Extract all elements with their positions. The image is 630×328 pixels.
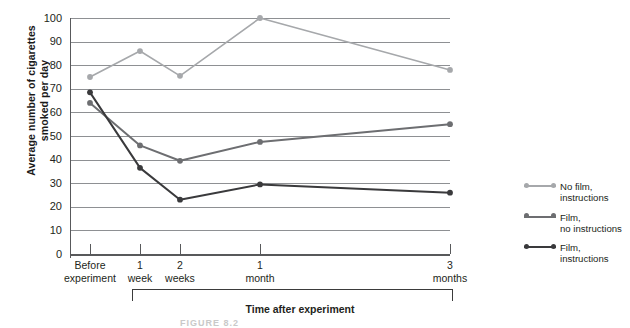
x-tick-label-4: 3months: [410, 259, 490, 284]
x-tick-2: [180, 244, 181, 254]
y-tick-label-100: 100: [36, 13, 62, 24]
x-tick-label-2-line-1: weeks: [140, 272, 220, 285]
x-tick-4: [450, 244, 451, 254]
x-tick-label-2-line-0: 2: [140, 259, 220, 272]
x-tick-3: [260, 244, 261, 254]
y-tick-label-60: 60: [36, 107, 62, 118]
y-tick-label-50: 50: [36, 131, 62, 142]
x-axis-range-bracket: [132, 289, 453, 301]
gridline-70: [70, 89, 450, 90]
legend-marker-l-1: [524, 213, 529, 218]
y-tick-label-30: 30: [36, 178, 62, 189]
legend: No film,instructionsFilm,no instructions…: [524, 181, 630, 273]
x-axis-title: Time after experiment: [150, 303, 450, 315]
y-tick-label-0: 0: [36, 249, 62, 260]
y-tick-label-90: 90: [36, 36, 62, 47]
plot-area: [70, 18, 450, 254]
gridline-40: [70, 160, 450, 161]
legend-label-0-line-0: No film,: [560, 181, 630, 192]
gridline-60: [70, 112, 450, 113]
legend-marker-l-0: [524, 183, 529, 188]
x-tick-label-2: 2weeks: [140, 259, 220, 284]
y-tick-label-10: 10: [36, 225, 62, 236]
gridline-30: [70, 183, 450, 184]
legend-label-2: Film,instructions: [560, 242, 630, 264]
gridline-10: [70, 230, 450, 231]
legend-label-0: No film,instructions: [560, 181, 630, 203]
legend-marker-r-1: [551, 213, 556, 218]
legend-label-2-line-0: Film,: [560, 242, 630, 253]
legend-label-1-line-0: Film,: [560, 212, 630, 223]
gridline-90: [70, 42, 450, 43]
y-tick-label-70: 70: [36, 83, 62, 94]
legend-marker-r-2: [551, 244, 556, 249]
legend-item-0[interactable]: No film,instructions: [524, 181, 630, 203]
legend-item-1[interactable]: Film,no instructions: [524, 212, 630, 234]
legend-label-1-line-1: no instructions: [560, 223, 630, 234]
y-tick-label-80: 80: [36, 60, 62, 71]
legend-label-1: Film,no instructions: [560, 212, 630, 234]
gridline-50: [70, 136, 450, 137]
y-axis-line: [70, 18, 71, 258]
y-tick-label-20: 20: [36, 201, 62, 212]
figure-line-chart: Average number of cigarettes smoked per …: [0, 0, 630, 328]
x-tick-label-3-line-1: month: [220, 272, 300, 285]
x-tick-label-3: 1month: [220, 259, 300, 284]
x-tick-label-4-line-1: months: [410, 272, 490, 285]
y-tick-label-40: 40: [36, 154, 62, 165]
x-tick-label-3-line-0: 1: [220, 259, 300, 272]
legend-label-2-line-1: instructions: [560, 253, 630, 264]
gridline-100: [70, 18, 450, 19]
legend-marker-r-0: [551, 183, 556, 188]
x-tick-label-4-line-0: 3: [410, 259, 490, 272]
gridline-20: [70, 207, 450, 208]
legend-label-0-line-1: instructions: [560, 192, 630, 203]
figure-caption: FIGURE 8.2: [180, 318, 239, 328]
x-tick-0: [90, 244, 91, 254]
x-axis-line: [70, 254, 450, 256]
x-tick-1: [140, 244, 141, 254]
gridline-80: [70, 65, 450, 66]
legend-item-2[interactable]: Film,instructions: [524, 242, 630, 264]
legend-marker-l-2: [524, 244, 529, 249]
